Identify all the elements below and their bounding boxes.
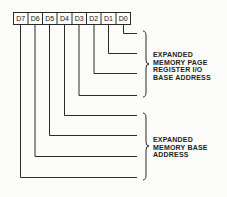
register-diagram: D7 D6 D5 D4 D3 D2 D1 D0 [0, 0, 227, 197]
bit-label: D5 [45, 15, 54, 22]
bit-label: D0 [119, 15, 128, 22]
bit-line-d5 [50, 25, 138, 136]
bit-line-d2 [94, 25, 137, 74]
brace-lower [143, 113, 149, 180]
bit-label: D2 [89, 15, 98, 22]
group-label-page-register: EXPANDED MEMORY PAGE REGISTER I/O BASE A… [153, 51, 211, 81]
bit-label: D3 [75, 15, 84, 22]
bit-label: D6 [31, 15, 40, 22]
bit-line-d4 [65, 25, 138, 116]
bit-line-d6 [35, 25, 137, 157]
bit-line-d1 [109, 25, 138, 54]
bit-line-d0 [124, 25, 138, 34]
bit-label: D7 [16, 15, 25, 22]
bit-label: D4 [60, 15, 69, 22]
group-label-memory-base: EXPANDED MEMORY BASE ADDRESS [153, 136, 208, 159]
brace-upper [143, 31, 149, 97]
bit-label: D1 [104, 15, 113, 22]
